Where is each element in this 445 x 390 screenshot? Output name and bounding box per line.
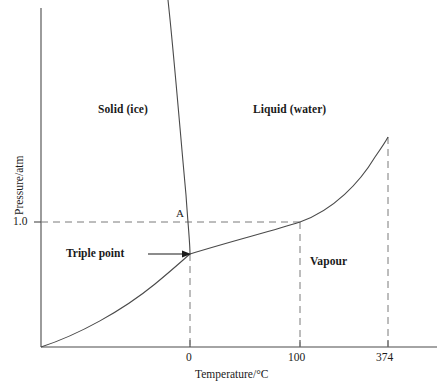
axes-group <box>34 8 437 347</box>
x-tick-label-374: 374 <box>376 352 393 364</box>
triple-point-label: Triple point <box>66 248 124 260</box>
guide-lines-group <box>41 137 388 347</box>
phase-diagram-figure: Solid (ice) Liquid (water) Vapour Triple… <box>0 0 445 390</box>
region-label-solid: Solid (ice) <box>98 104 148 116</box>
point-a-label: A <box>176 208 184 219</box>
x-tick-label-100: 100 <box>288 352 305 364</box>
x-axis-title: Temperature/°C <box>195 369 268 381</box>
phase-diagram-canvas <box>0 0 445 390</box>
y-tick-label-1.0: 1.0 <box>13 216 27 228</box>
region-label-liquid: Liquid (water) <box>253 104 326 116</box>
triple-point-arrow-group <box>148 251 191 258</box>
y-axis-title: Pressure/atm <box>14 156 26 215</box>
x-tick-label-0: 0 <box>186 352 192 364</box>
region-label-vapour: Vapour <box>310 256 347 268</box>
vaporisation-curve-liquid-vapour <box>190 137 388 254</box>
sublimation-curve-solid-vapour <box>41 254 190 347</box>
phase-boundary-curves <box>41 0 388 347</box>
